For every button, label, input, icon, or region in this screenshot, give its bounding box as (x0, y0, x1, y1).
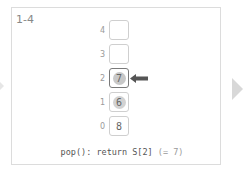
previous-slide-button[interactable] (0, 78, 6, 94)
stack-cell-0: 8 (109, 116, 129, 136)
caption: pop(): return S[2] (= 7) (0, 147, 244, 157)
stack-cell-2-top: 7 (109, 68, 129, 88)
stack-value (110, 21, 128, 39)
stack-value (110, 45, 128, 63)
stack-index-4: 4 (97, 26, 105, 35)
stack-value: 7 (110, 69, 128, 87)
stack-cell-4 (109, 20, 129, 40)
next-slide-button[interactable] (232, 78, 243, 100)
stack-cell-3 (109, 44, 129, 64)
stack-value: 8 (110, 117, 128, 135)
caption-code: pop(): return S[2] (61, 147, 153, 157)
stack-index-2: 2 (97, 74, 105, 83)
caption-note: (= 7) (158, 147, 184, 157)
pointer-arrow-icon (130, 74, 148, 83)
stack-index-0: 0 (97, 122, 105, 131)
stack-value: 6 (110, 93, 128, 111)
stack-index-3: 3 (97, 50, 105, 59)
stack-index-1: 1 (97, 98, 105, 107)
step-label: 1-4 (16, 13, 34, 26)
stack-cell-1: 6 (109, 92, 129, 112)
